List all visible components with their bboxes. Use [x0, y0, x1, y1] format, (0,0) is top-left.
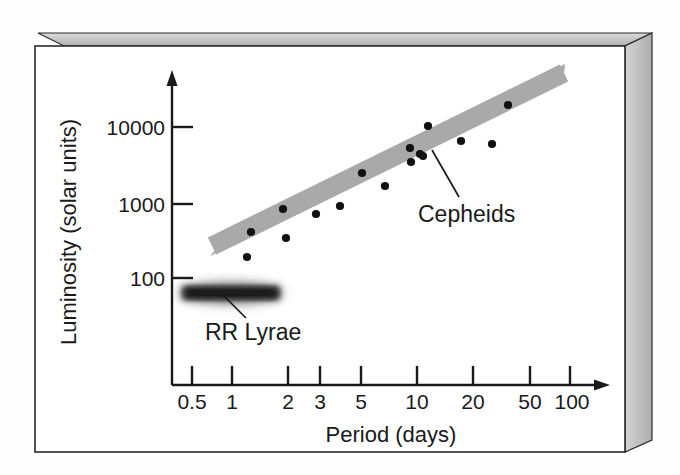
y-tick-label-100: 100 — [130, 267, 165, 290]
data-point — [457, 137, 465, 145]
x-axis-title: Period (days) — [326, 422, 457, 447]
x-tick-label-50: 50 — [518, 390, 541, 413]
x-tick-label-20: 20 — [461, 390, 484, 413]
data-point — [419, 152, 427, 160]
data-point — [247, 228, 255, 236]
data-point — [282, 234, 290, 242]
period-luminosity-diagram: 10000 1000 100 0.5 1 2 3 5 10 20 50 100 — [0, 0, 680, 475]
x-tick-label-5: 5 — [355, 390, 367, 413]
data-point — [424, 122, 432, 130]
data-point — [381, 182, 389, 190]
rr-lyrae-core-dark — [186, 289, 276, 297]
data-point — [407, 158, 415, 166]
y-tick-label-10000: 10000 — [107, 116, 165, 139]
x-tick-label-3: 3 — [314, 390, 326, 413]
rr-lyrae-cluster — [179, 282, 283, 304]
data-point — [243, 253, 251, 261]
data-point — [336, 202, 344, 210]
rr-lyrae-label: RR Lyrae — [205, 319, 301, 345]
figure-container: 10000 1000 100 0.5 1 2 3 5 10 20 50 100 — [0, 0, 680, 475]
x-tick-label-0.5: 0.5 — [177, 390, 206, 413]
data-point — [488, 140, 496, 148]
x-tick-label-100: 100 — [554, 390, 589, 413]
data-point — [504, 101, 512, 109]
data-point — [279, 205, 287, 213]
data-point — [406, 144, 414, 152]
x-tick-label-2: 2 — [282, 390, 294, 413]
slab-right-bevel — [625, 33, 652, 452]
slab-top-bevel — [38, 33, 652, 46]
y-tick-label-1000: 1000 — [118, 193, 165, 216]
x-tick-label-1: 1 — [226, 390, 238, 413]
cepheids-label: Cepheids — [418, 201, 515, 227]
data-point — [312, 210, 320, 218]
y-axis-title: Luminosity (solar units) — [56, 119, 81, 345]
x-tick-label-10: 10 — [405, 390, 428, 413]
data-point — [358, 169, 366, 177]
